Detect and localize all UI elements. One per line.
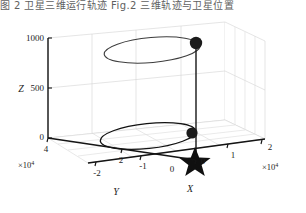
y-axis-label: Y	[113, 186, 120, 197]
y-axis-exponent: ×104	[18, 160, 34, 171]
x-tick-minus1: -1	[139, 161, 147, 171]
figure-root: 图 2 卫星三维运行轨迹 Fig.2 三维轨迹与卫星位置	[0, 0, 306, 213]
z-tick-0: 0	[40, 132, 45, 142]
x-tick-2: 2	[268, 142, 273, 152]
y-tick-0: 0	[170, 164, 175, 174]
x-tick-minus2: -2	[93, 168, 101, 178]
back-right-wall	[225, 22, 265, 139]
ground-station-marker[interactable]	[179, 147, 210, 176]
upper-satellite-marker[interactable]	[190, 37, 202, 49]
z-tick-500: 500	[31, 83, 45, 93]
x-axis-exponent: ×104	[262, 162, 278, 173]
y-tick-2: 2	[119, 155, 124, 165]
x-tick-0: 0	[201, 156, 206, 166]
x-tick-1: 1	[231, 150, 236, 160]
x-axis-label: X	[186, 183, 194, 194]
z-axis: 1000 500 0 Z	[18, 33, 52, 142]
lower-satellite-marker[interactable]	[186, 127, 197, 138]
z-tick-1000: 1000	[26, 33, 45, 43]
z-axis-label: Z	[18, 83, 24, 94]
y-tick-4: 4	[44, 144, 49, 154]
three-d-plot-canvas: 1000 500 0 Z 4 2 0 Y ×104 -2 -1	[0, 0, 306, 213]
